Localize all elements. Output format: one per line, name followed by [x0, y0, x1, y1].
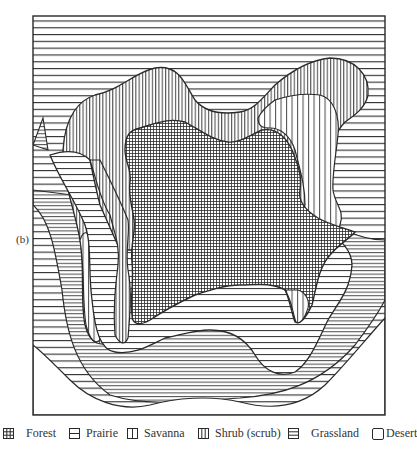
legend-label-grassland: Grassland: [311, 426, 359, 441]
legend-item-grassland: Grassland: [288, 426, 359, 441]
legend-label-forest: Forest: [26, 426, 56, 441]
legend-label-shrub: Shrub (scrub): [215, 426, 281, 441]
legend-label-prairie: Prairie: [86, 426, 118, 441]
vertical-lines-square-icon: [198, 428, 209, 439]
legend: Forest Prairie Savanna Shrub (scrub) Gra…: [0, 426, 417, 446]
vertical-split-square-icon: [127, 428, 138, 439]
panel-label: (b): [16, 233, 29, 245]
legend-item-shrub: Shrub (scrub): [198, 426, 281, 441]
empty-square-icon: [372, 428, 384, 440]
legend-item-prairie: Prairie: [69, 426, 118, 441]
horizontal-split-square-icon: [69, 428, 80, 439]
legend-item-savanna: Savanna: [127, 426, 185, 441]
legend-label-desert: Desert: [386, 426, 417, 441]
legend-item-desert: Desert: [372, 426, 417, 441]
crosshatch-square-icon: [3, 428, 14, 439]
legend-item-forest: Forest: [3, 426, 56, 441]
horizontal-lines-square-icon: [288, 428, 299, 439]
vegetation-map: [0, 0, 417, 425]
legend-label-savanna: Savanna: [144, 426, 185, 441]
